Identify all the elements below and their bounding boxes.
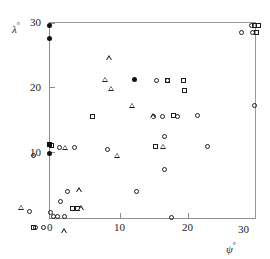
data-point-open-circle [62, 214, 67, 219]
data-point-open-square [165, 78, 170, 83]
data-point-open-triangle [114, 153, 120, 158]
data-point-open-square [181, 78, 186, 83]
data-point-open-circle [41, 225, 46, 230]
data-point-open-triangle [61, 228, 67, 233]
data-point-open-circle [195, 113, 200, 118]
data-point-open-triangle [160, 144, 166, 149]
data-point-filled-circle [47, 23, 52, 28]
data-point-open-triangle [102, 77, 108, 82]
data-point-open-square [256, 23, 261, 28]
data-point-open-circle [31, 153, 36, 158]
data-point-open-circle [239, 30, 244, 35]
data-point-open-triangle [76, 187, 82, 192]
data-point-open-circle [55, 214, 60, 219]
data-point-open-square [171, 113, 176, 118]
data-point-open-triangle [106, 55, 112, 60]
data-point-open-circle [162, 167, 167, 172]
data-point-open-circle [169, 215, 174, 220]
data-point-open-square [90, 114, 95, 119]
data-point-open-triangle [129, 103, 135, 108]
data-point-open-triangle [108, 86, 114, 91]
data-point-open-triangle [150, 113, 156, 118]
data-point-open-circle [27, 209, 32, 214]
data-point-open-circle [105, 147, 110, 152]
data-point-filled-circle [132, 77, 137, 82]
data-point-filled-circle [47, 151, 52, 156]
data-point-open-circle [205, 144, 210, 149]
data-point-open-triangle [62, 145, 68, 150]
data-point-open-circle [72, 145, 77, 150]
data-point-open-square [254, 30, 259, 35]
data-point-filled-square [47, 142, 52, 147]
data-point-open-circle [134, 189, 139, 194]
data-point-open-circle [58, 199, 63, 204]
data-point-open-circle [162, 134, 167, 139]
data-point-open-circle [160, 114, 165, 119]
data-point-open-triangle [18, 205, 24, 210]
data-point-open-square [31, 225, 36, 230]
data-point-filled-circle [47, 36, 52, 41]
data-points-layer [0, 0, 270, 259]
data-point-open-triangle [78, 205, 84, 210]
data-point-open-square [153, 144, 158, 149]
data-point-open-circle [154, 78, 159, 83]
data-point-open-circle [252, 103, 257, 108]
data-point-open-circle [65, 189, 70, 194]
scatter-plot-figure: 30 20 10 0 10 20 30 λ° ψ° [0, 0, 270, 259]
data-point-open-square [182, 88, 187, 93]
